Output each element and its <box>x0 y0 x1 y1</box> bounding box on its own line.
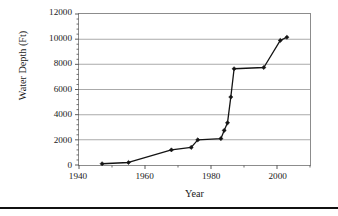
y-axis-tick-label: 0 <box>67 161 72 170</box>
y-axis-tick-label: 2000 <box>54 136 72 145</box>
y-axis-tick-label: 6000 <box>54 85 72 94</box>
plot-area <box>78 13 311 166</box>
data-series-line <box>79 14 310 165</box>
chart-figure: 020004000600080001000012000 Water Depth … <box>0 0 338 216</box>
x-axis-tick-label: 1940 <box>69 172 87 181</box>
y-axis-tick-label: 12000 <box>49 8 72 17</box>
x-axis-tick-labels: 1940196019802000 <box>78 172 311 186</box>
x-axis-title: Year <box>78 188 311 199</box>
y-axis-tick-labels: 020004000600080001000012000 <box>0 13 72 166</box>
y-axis-title: Water Depth (Ft) <box>17 1 28 131</box>
y-axis-tick-label: 4000 <box>54 110 72 119</box>
x-axis-tick-label: 1980 <box>202 172 220 181</box>
y-axis-tick-label: 10000 <box>49 34 72 43</box>
bottom-divider-rule <box>0 207 338 209</box>
y-axis-tick-label: 8000 <box>54 59 72 68</box>
x-axis-tick-label: 1960 <box>135 172 153 181</box>
x-axis-tick-label: 2000 <box>269 172 287 181</box>
